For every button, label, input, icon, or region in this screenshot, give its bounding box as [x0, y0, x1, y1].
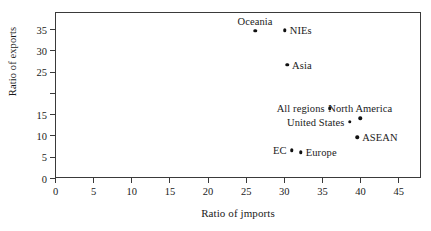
data-point-label: United States — [287, 116, 345, 127]
x-tick: 10 — [131, 178, 132, 183]
x-tick-label: 35 — [317, 186, 328, 197]
x-tick: 0 — [55, 178, 56, 183]
data-point-label: ASEAN — [362, 132, 398, 143]
chart-page: Ratio of exports Ratio of jmports 051015… — [0, 0, 431, 231]
x-axis-title: Ratio of jmports — [55, 207, 421, 219]
x-tick-label: 0 — [53, 186, 58, 197]
data-point-label: Europe — [306, 147, 337, 158]
x-tick: 20 — [208, 178, 209, 183]
x-tick: 45 — [398, 178, 399, 183]
y-tick-label: 5 — [42, 152, 47, 163]
x-tick-label: 40 — [355, 186, 366, 197]
data-point-label: Asia — [292, 59, 312, 70]
data-point-label: All regions — [277, 103, 325, 114]
y-tick-label: 30 — [37, 45, 48, 56]
x-tick-label: 30 — [279, 186, 290, 197]
y-axis-title: Ratio of exports — [7, 2, 18, 122]
x-tick-label: 5 — [91, 186, 96, 197]
y-tick-label: 15 — [37, 109, 48, 120]
data-point — [355, 136, 359, 140]
plot-area: OceaniaNIEsAsiaAll regionsNorth AmericaU… — [55, 12, 421, 178]
data-point-label: NIEs — [290, 25, 312, 36]
x-tick: 35 — [322, 178, 323, 183]
x-tick: 15 — [169, 178, 170, 183]
data-point-label: Oceania — [237, 16, 272, 27]
data-point — [283, 28, 287, 32]
x-tick-label: 45 — [393, 186, 404, 197]
x-tick-label: 10 — [127, 186, 138, 197]
data-point — [358, 116, 362, 120]
data-point — [285, 63, 289, 67]
x-tick: 5 — [93, 178, 94, 183]
data-point — [348, 120, 352, 124]
x-tick-label: 15 — [165, 186, 176, 197]
y-tick-label: 35 — [37, 24, 48, 35]
x-tick-label: 25 — [241, 186, 252, 197]
data-point — [253, 29, 257, 33]
x-tick-label: 20 — [203, 186, 214, 197]
y-tick-label: 0 — [42, 173, 47, 184]
data-point-label: EC — [273, 145, 287, 156]
x-tick: 25 — [246, 178, 247, 183]
data-point-label: North America — [328, 103, 392, 114]
x-tick: 30 — [284, 178, 285, 183]
x-tick: 40 — [360, 178, 361, 183]
data-point — [290, 148, 294, 152]
y-tick-label: 10 — [37, 130, 48, 141]
y-tick-label: 25 — [37, 67, 48, 78]
data-point — [299, 150, 303, 154]
